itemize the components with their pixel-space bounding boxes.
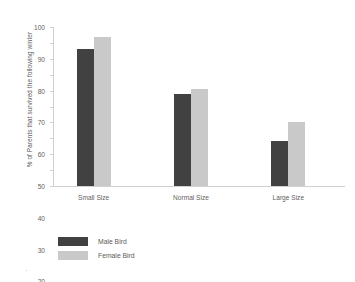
legend-item: Male Bird [58,234,135,248]
y-tick-mark: 30 [50,138,53,139]
bar-chart: % of Parents that survived the following… [0,0,355,282]
y-tick-label: 80 [38,87,45,94]
y-tick-label: 40 [38,214,45,221]
legend-label: Male Bird [98,238,127,245]
bar-group: Large Size [271,27,305,186]
bar-pair [174,27,208,186]
bar-female-bird [191,89,208,186]
y-tick-mark: 50 [50,107,53,108]
y-tick-mark: 10 [50,170,53,171]
legend-swatch [58,237,88,246]
x-axis-line [53,186,345,187]
bar-pair [271,27,305,186]
bar-male-bird [174,94,191,186]
x-tick-label: Normal Size [173,194,209,201]
bar-female-bird [94,37,111,186]
y-tick-label: 90 [38,55,45,62]
y-tick-label: 100 [34,24,45,31]
x-tick-label: Small Size [78,194,109,201]
x-tick-label: Large Size [273,194,305,201]
bar-female-bird [288,122,305,186]
y-tick-mark: 70 [50,75,53,76]
plot-area: 0102030405060708090100 Small SizeNormal … [53,27,345,186]
bar-group: Small Size [77,27,111,186]
y-tick-mark: 40 [50,122,53,123]
y-tick-mark: 0 [50,186,53,187]
legend-label: Female Bird [98,252,135,259]
y-tick-label: 20 [38,278,45,282]
y-tick-mark: 100 [50,27,53,28]
y-tick-label: 30 [38,246,45,253]
y-tick-mark: 20 [50,154,53,155]
y-tick-mark: 90 [50,43,53,44]
bar-male-bird [271,141,288,186]
legend-swatch [58,251,88,260]
bar-pair [77,27,111,186]
y-tick-mark: 80 [50,59,53,60]
y-tick-mark: 60 [50,91,53,92]
y-tick-label: 70 [38,119,45,126]
chart-legend: Male BirdFemale Bird [58,234,135,262]
y-tick-label: 50 [38,183,45,190]
bar-male-bird [77,49,94,186]
legend-item: Female Bird [58,248,135,262]
bar-group: Normal Size [174,27,208,186]
corner-mark [26,270,27,271]
y-tick-label: 60 [38,151,45,158]
y-axis-title: % of Parents that survived the following… [26,5,33,195]
